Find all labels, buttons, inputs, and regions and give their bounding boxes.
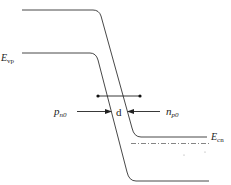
- band-diagram: Evp Ecn pn0 np0 d: [0, 0, 231, 185]
- label-np0: np0: [166, 105, 179, 119]
- dot-marker: [183, 154, 184, 155]
- dot-marker: [204, 151, 205, 152]
- label-width-d: d: [116, 106, 122, 118]
- label-evp: Evp: [0, 52, 15, 65]
- segment-endpoint-right: [138, 94, 141, 97]
- label-ecn: Ecn: [210, 131, 224, 144]
- upper-band-curve: [22, 10, 207, 137]
- label-pn0: pn0: [53, 105, 67, 119]
- segment-endpoint-left: [96, 94, 99, 97]
